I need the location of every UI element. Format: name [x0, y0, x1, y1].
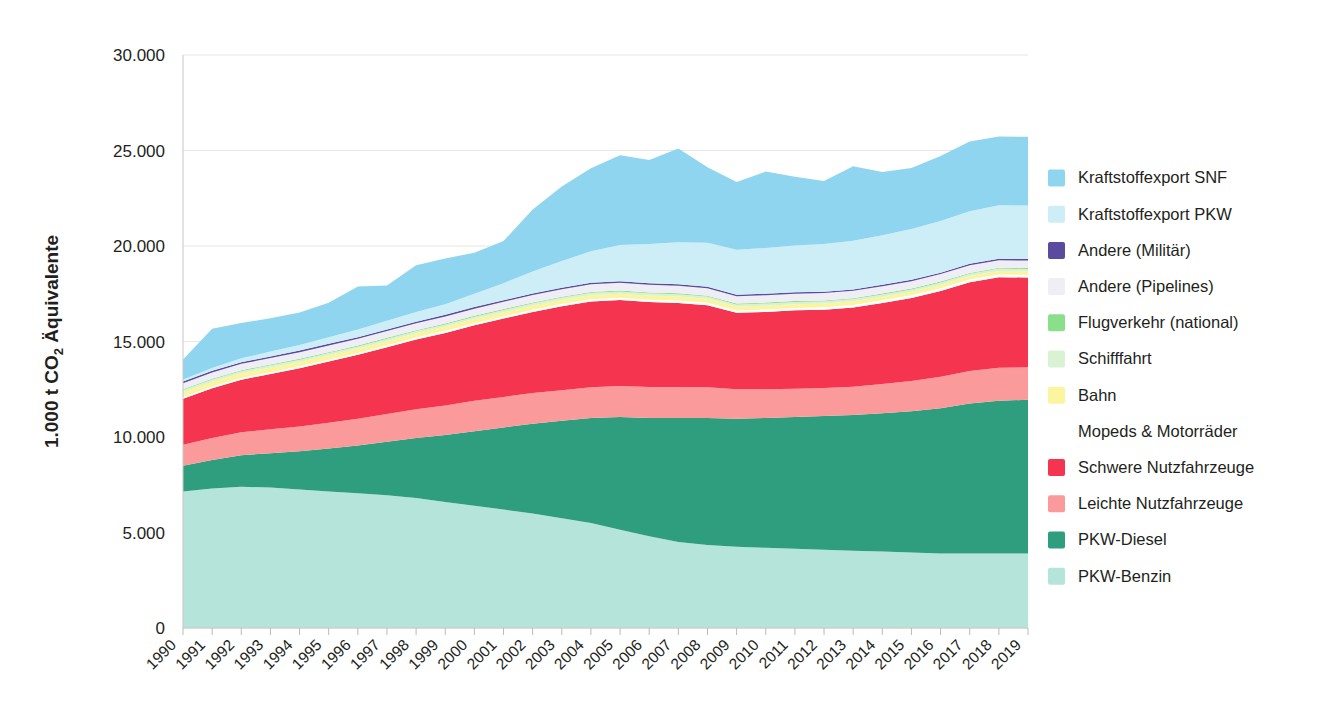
legend-label: Schifffahrt — [1078, 349, 1152, 367]
x-tick-label: 2002 — [492, 636, 528, 672]
legend-swatch — [1048, 459, 1065, 476]
legend-item[interactable]: Flugverkehr (national) — [1048, 313, 1239, 331]
x-tick-label: 2017 — [929, 636, 965, 672]
x-tick-label: 2012 — [784, 636, 820, 672]
x-tick-label: 2004 — [551, 636, 588, 673]
x-tick-label: 1993 — [230, 636, 266, 672]
x-tick-label: 1994 — [259, 636, 296, 673]
legend-label: Bahn — [1078, 386, 1117, 404]
legend-item[interactable]: Leichte Nutzfahrzeuge — [1048, 494, 1243, 512]
legend-swatch — [1048, 278, 1065, 295]
x-tick-label: 2014 — [842, 636, 879, 673]
x-tick-label: 2000 — [434, 636, 471, 673]
x-tick-label: 1998 — [376, 636, 412, 672]
chart-legend: Kraftstoffexport SNFKraftstoffexport PKW… — [1048, 168, 1254, 584]
area-layers-group — [183, 136, 1028, 628]
legend-label: Schwere Nutzfahrzeuge — [1078, 458, 1254, 476]
legend-label: Kraftstoffexport PKW — [1078, 205, 1232, 223]
x-tick-label: 1997 — [347, 636, 383, 672]
legend-item[interactable]: Andere (Militär) — [1048, 241, 1191, 259]
legend-label: Andere (Militär) — [1078, 241, 1191, 259]
legend-item[interactable]: Mopeds & Motorräder — [1048, 422, 1238, 440]
y-axis-ticks: 05.00010.00015.00020.00025.00030.000 — [113, 46, 165, 638]
legend-swatch — [1048, 387, 1065, 404]
stacked-area-chart: 05.00010.00015.00020.00025.00030.000 199… — [0, 0, 1332, 704]
x-axis-ticks: 1990199119921993199419951996199719981999… — [143, 628, 1028, 673]
y-tick-label: 20.000 — [113, 237, 165, 256]
x-tick-label: 1990 — [143, 636, 180, 673]
x-tick-label: 1996 — [318, 636, 354, 672]
chart-container: 05.00010.00015.00020.00025.00030.000 199… — [0, 0, 1332, 704]
x-tick-label: 2001 — [463, 636, 499, 672]
x-tick-label: 2007 — [638, 636, 674, 672]
legend-swatch — [1048, 242, 1065, 259]
legend-item[interactable]: Bahn — [1048, 386, 1117, 404]
legend-swatch — [1048, 423, 1065, 440]
x-tick-label: 2011 — [755, 636, 791, 672]
legend-swatch — [1048, 568, 1065, 585]
legend-label: Andere (Pipelines) — [1078, 277, 1214, 295]
x-tick-label: 2013 — [813, 636, 849, 672]
y-axis-title: 1.000 t CO2 Äquivalente — [41, 235, 66, 448]
legend-swatch — [1048, 206, 1065, 223]
y-tick-label: 5.000 — [122, 524, 165, 543]
legend-item[interactable]: Schwere Nutzfahrzeuge — [1048, 458, 1254, 476]
legend-swatch — [1048, 351, 1065, 368]
x-tick-label: 2006 — [609, 636, 645, 672]
x-tick-label: 1995 — [288, 636, 324, 672]
legend-label: Leichte Nutzfahrzeuge — [1078, 494, 1243, 512]
x-tick-label: 1999 — [405, 636, 441, 672]
legend-swatch — [1048, 532, 1065, 549]
x-tick-label: 2009 — [696, 636, 732, 672]
y-tick-label: 25.000 — [113, 142, 165, 161]
legend-label: PKW-Diesel — [1078, 530, 1167, 548]
x-tick-label: 2003 — [522, 636, 558, 672]
y-tick-label: 15.000 — [113, 333, 165, 352]
y-tick-label: 30.000 — [113, 46, 165, 65]
x-tick-label: 2008 — [667, 636, 703, 672]
x-tick-label: 2010 — [725, 636, 762, 673]
legend-item[interactable]: Schifffahrt — [1048, 349, 1152, 367]
legend-item[interactable]: PKW-Benzin — [1048, 567, 1171, 585]
x-tick-label: 2019 — [988, 636, 1024, 672]
x-tick-label: 2015 — [871, 636, 907, 672]
legend-item[interactable]: Andere (Pipelines) — [1048, 277, 1214, 295]
legend-swatch — [1048, 314, 1065, 331]
legend-item[interactable]: Kraftstoffexport PKW — [1048, 205, 1232, 223]
legend-swatch — [1048, 170, 1065, 187]
legend-swatch — [1048, 495, 1065, 512]
x-tick-label: 2005 — [580, 636, 616, 672]
legend-item[interactable]: PKW-Diesel — [1048, 530, 1167, 548]
legend-label: Mopeds & Motorräder — [1078, 422, 1238, 440]
x-tick-label: 2018 — [959, 636, 995, 672]
x-tick-label: 1992 — [201, 636, 237, 672]
x-tick-label: 2016 — [900, 636, 936, 672]
y-tick-label: 0 — [156, 619, 165, 638]
legend-label: Kraftstoffexport SNF — [1078, 168, 1227, 186]
legend-label: Flugverkehr (national) — [1078, 313, 1239, 331]
legend-item[interactable]: Kraftstoffexport SNF — [1048, 168, 1227, 186]
y-axis-label: 1.000 t CO2 Äquivalente — [41, 235, 66, 448]
y-tick-label: 10.000 — [113, 428, 165, 447]
legend-label: PKW-Benzin — [1078, 567, 1171, 585]
x-tick-label: 1991 — [172, 636, 208, 672]
